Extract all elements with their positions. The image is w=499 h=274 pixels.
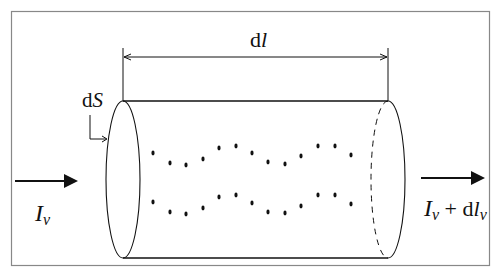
left-cross-section	[106, 101, 140, 258]
length-dimension	[123, 48, 388, 101]
particle-dot	[299, 204, 302, 209]
particle-dot	[168, 161, 171, 166]
outgoing-intensity-label: Iv + dlv	[423, 195, 488, 223]
particle-dot	[234, 193, 237, 198]
particles	[151, 144, 352, 217]
right-cross-section-front	[388, 101, 405, 258]
length-label: dl	[250, 27, 267, 52]
particle-dot	[299, 154, 302, 159]
particle-dot	[217, 146, 220, 151]
cylinder	[106, 101, 405, 258]
particle-dot	[151, 200, 154, 205]
outgoing-arrow	[421, 171, 485, 185]
incoming-intensity-label: Iv	[34, 200, 51, 228]
particle-dot	[333, 144, 336, 149]
right-cross-section-back	[371, 101, 388, 258]
particle-dot	[266, 160, 269, 165]
particle-dot	[283, 162, 286, 167]
particle-dot	[333, 193, 336, 198]
particle-dot	[201, 206, 204, 211]
particle-dot	[349, 202, 352, 207]
particle-dot	[234, 144, 237, 149]
particle-dot	[184, 212, 187, 217]
particle-dot	[316, 193, 319, 198]
area-label: dS	[82, 88, 104, 112]
particle-dot	[283, 211, 286, 216]
particle-dot	[250, 151, 253, 156]
particle-dot	[266, 210, 269, 215]
cylinder-diagram: dl dS Iv Iv + dlv	[0, 0, 499, 274]
area-pointer	[90, 115, 107, 142]
particle-dot	[349, 153, 352, 158]
particle-dot	[250, 201, 253, 206]
incoming-arrow	[15, 174, 78, 188]
particle-dot	[201, 157, 204, 162]
particle-dot	[184, 163, 187, 168]
particle-dot	[168, 210, 171, 215]
particle-dot	[316, 144, 319, 149]
particle-dot	[151, 151, 154, 156]
particle-dot	[217, 195, 220, 200]
